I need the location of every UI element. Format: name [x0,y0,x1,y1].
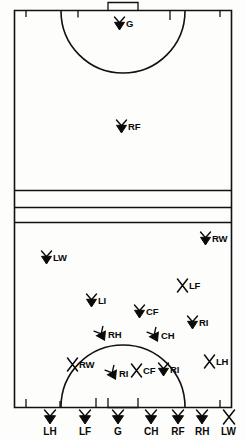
player-marker-label: G [126,19,133,29]
field-outline [15,11,232,408]
player-marker: LW [40,250,67,265]
bottom-position-marker: RF [171,409,185,437]
bottom-position-icon [43,409,57,425]
player-marker-icon [186,315,199,330]
player-marker: CF [133,304,158,319]
player-marker-label: RI [199,318,208,328]
player-marker-icon [176,278,189,293]
bottom-position-marker: LF [78,409,92,437]
player-marker-label: RW [79,360,94,370]
player-marker-label: RF [128,122,140,132]
player-marker-icon [66,357,79,372]
midfield-lines [15,191,232,223]
player-marker: RW [66,357,94,372]
player-marker: CH [148,328,174,343]
bottom-goal-box [108,398,138,408]
bottom-position-label: RF [171,426,184,437]
player-marker: LF [176,278,200,293]
player-marker-label: LF [189,281,200,291]
bottom-position-label: LF [79,426,91,437]
bottom-position-marker: G [111,409,125,437]
player-marker-label: LH [216,357,228,367]
player-marker: RW [199,231,227,246]
player-marker: LH [203,354,228,369]
bottom-tick-marks [26,398,220,408]
player-marker-icon [40,250,53,265]
player-marker-label: CH [161,331,174,341]
player-marker-icon [113,16,126,31]
bottom-position-icon [222,409,236,425]
bottom-position-icon [195,409,209,425]
bottom-position-marker: LW [221,409,236,437]
player-marker-icon [203,354,216,369]
player-marker: RI [106,366,128,381]
player-marker: LI [85,293,106,308]
bottom-position-icon [171,409,185,425]
player-marker: RF [115,119,140,134]
field-diagram: GRFRWLWLFLIRICFRHCHRWLHRICFRI LHLFGCHRFR… [0,0,246,440]
player-marker-label: RW [212,234,227,244]
player-marker-icon [133,304,146,319]
bottom-position-icon [78,409,92,425]
player-marker-label: RI [170,365,179,375]
player-marker-icon [115,119,128,134]
bottom-position-label: LH [43,426,56,437]
bottom-position-marker: RH [195,409,209,437]
bottom-position-marker: CH [144,409,158,437]
player-marker-label: LW [53,253,67,263]
player-marker-label: CF [146,307,158,317]
player-marker: RI [186,315,208,330]
player-marker-label: CF [143,366,155,376]
player-marker-label: LI [98,296,106,306]
player-marker-label: RI [119,369,128,379]
bottom-position-label: G [114,426,122,437]
bottom-position-marker: LH [43,409,57,437]
bottom-position-label: RH [195,426,209,437]
bottom-position-icon [111,409,125,425]
bottom-position-label: CH [144,426,158,437]
player-marker-label: RH [108,330,121,340]
player-marker-icon [157,362,170,377]
player-marker-icon [130,363,143,378]
player-marker: RI [157,362,179,377]
player-marker: CF [130,363,155,378]
bottom-position-icon [144,409,158,425]
player-marker-icon [85,293,98,308]
bottom-position-label: LW [221,426,236,437]
player-marker: G [113,16,133,31]
player-marker: RH [95,327,121,342]
player-marker-icon [199,231,212,246]
